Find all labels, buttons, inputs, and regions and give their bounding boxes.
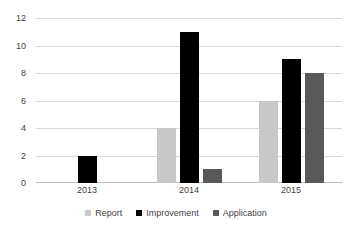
legend-label: Improvement: [146, 208, 199, 218]
y-tick-label-8: 8: [21, 69, 26, 78]
bar-application-2015[interactable]: [305, 73, 324, 183]
x-tick-label-2013: 2013: [77, 185, 97, 196]
x-axis: 201320142015: [36, 185, 342, 199]
legend-item-application[interactable]: Application: [213, 208, 267, 218]
bar-chart: 024681012 201320142015 ReportImprovement…: [0, 0, 352, 233]
legend-item-improvement[interactable]: Improvement: [136, 208, 199, 218]
y-tick-label-10: 10: [16, 41, 26, 50]
legend-label: Application: [223, 208, 267, 218]
legend-swatch-icon-application: [213, 210, 219, 216]
bars-layer: [36, 18, 342, 183]
bar-report-2014[interactable]: [157, 128, 176, 183]
chart-legend: ReportImprovementApplication: [0, 205, 352, 221]
bar-report-2015[interactable]: [259, 101, 278, 184]
legend-swatch-icon-report: [85, 210, 91, 216]
y-tick-label-4: 4: [21, 124, 26, 133]
y-tick-label-0: 0: [21, 179, 26, 188]
x-tick-label-2014: 2014: [179, 185, 199, 196]
legend-label: Report: [95, 208, 122, 218]
y-tick-label-12: 12: [16, 14, 26, 23]
legend-item-report[interactable]: Report: [85, 208, 122, 218]
legend-swatch-icon-improvement: [136, 210, 142, 216]
y-axis: 024681012: [0, 18, 32, 183]
bar-improvement-2013[interactable]: [78, 156, 97, 184]
x-tick-label-2015: 2015: [281, 185, 301, 196]
bar-application-2014[interactable]: [203, 169, 222, 183]
bar-improvement-2015[interactable]: [282, 59, 301, 183]
bar-improvement-2014[interactable]: [180, 32, 199, 183]
plot-area: [36, 18, 342, 183]
y-tick-label-2: 2: [21, 151, 26, 160]
y-tick-label-6: 6: [21, 96, 26, 105]
